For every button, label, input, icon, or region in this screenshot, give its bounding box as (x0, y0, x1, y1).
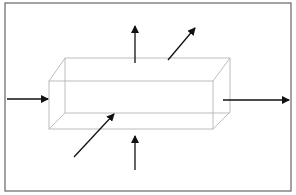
diagram-frame (5, 3, 291, 191)
hall-effect-diagram (0, 0, 296, 195)
magnetic-field-bottom-arrow (74, 114, 114, 157)
magnetic-field-top-arrow (168, 28, 195, 60)
conductor-slab (49, 58, 230, 129)
